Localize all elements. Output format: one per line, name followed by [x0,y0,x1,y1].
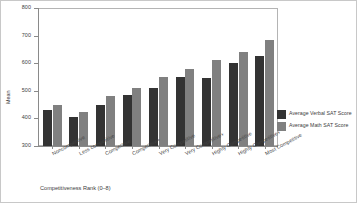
legend-item[interactable]: Average Verbal SAT Score [277,110,355,119]
bar [132,88,141,146]
y-tick: 400 [34,118,38,119]
chart-screenshot: 300400500600700800 Mean NoncompetitiveLe… [0,0,358,204]
legend-item[interactable]: Average Math SAT Score [277,122,355,131]
bar [176,77,185,146]
bar [229,63,238,146]
y-tick-label: 400 [22,114,31,120]
bar [265,40,274,146]
bar-chart: 300400500600700800 Mean NoncompetitiveLe… [0,0,358,204]
y-tick-label: 800 [22,4,31,10]
y-tick: 800 [34,8,38,9]
y-tick: 300 [34,146,38,147]
x-tick [212,146,213,149]
y-tick: 600 [34,63,38,64]
x-axis-title: Competitiveness Rank (0–8) [40,185,111,191]
legend-label: Average Verbal SAT Score [289,110,352,116]
x-tick [79,146,80,149]
y-axis-title: Mean [5,91,11,105]
chart-legend: Average Verbal SAT ScoreAverage Math SAT… [277,110,355,134]
bar [255,56,264,146]
y-tick-label: 300 [22,142,31,148]
x-tick [265,146,266,149]
y-tick-label: 600 [22,59,31,65]
bars-group [39,8,278,146]
bar [43,110,52,146]
bar [53,105,62,146]
x-tick [159,146,160,149]
legend-swatch-icon [277,110,286,119]
y-tick-label: 700 [22,32,31,38]
legend-label: Average Math SAT Score [289,122,348,128]
y-tick-label: 500 [22,87,31,93]
y-tick: 500 [34,91,38,92]
y-tick: 700 [34,36,38,37]
bar [159,77,168,146]
legend-swatch-icon [277,122,286,131]
